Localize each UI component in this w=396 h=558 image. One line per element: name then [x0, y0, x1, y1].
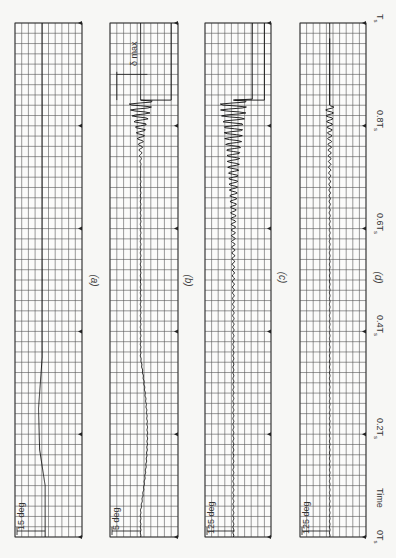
grid [15, 23, 82, 537]
time-axis-title: Time [375, 488, 385, 508]
grid [300, 23, 366, 537]
panel-c [205, 23, 271, 537]
panel-label-d: (d) [373, 271, 384, 283]
scale-label-c: 125 deg [206, 501, 216, 534]
time-tick-06: 0.6Ts [373, 213, 385, 234]
trace-plot-a [15, 23, 82, 537]
panel-d [300, 23, 366, 537]
scale-label-a: 15 deg [16, 502, 26, 530]
time-tick-04: 0.4Ts [373, 315, 385, 336]
delta-max-annotation: δ max [129, 41, 139, 66]
time-tick-02: 0.2Ts [373, 418, 385, 439]
panel-label-b: (b) [183, 274, 194, 286]
time-tick-08: 0.8Ts [373, 110, 385, 131]
panel-label-c: (c) [277, 272, 288, 284]
scale-label-d: 125 deg [301, 501, 311, 534]
trace-plot-b [110, 23, 178, 537]
panel-b [110, 23, 178, 537]
time-tick-1: Ts [373, 14, 385, 23]
time-tick-0: 0Ts [373, 530, 385, 544]
scale-label-b: 5 deg [111, 507, 121, 530]
trace-plot-d [300, 23, 366, 537]
panel-a [15, 23, 82, 537]
trace-plot-c [205, 23, 271, 537]
panel-label-a: (a) [89, 274, 100, 286]
